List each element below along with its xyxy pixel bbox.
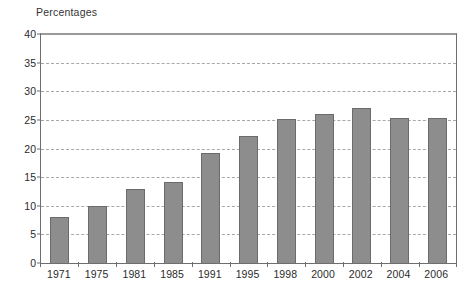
bar-slot-1981 — [116, 34, 154, 263]
x-axis-labels-group: 1971197519811985199119951998200020022004… — [40, 268, 455, 280]
bar-1991[interactable] — [201, 153, 220, 263]
bar-slot-1991 — [192, 34, 230, 263]
bar-slot-2006 — [418, 34, 456, 263]
x-axis-label-1981: 1981 — [115, 268, 153, 280]
bar-1998[interactable] — [277, 119, 296, 263]
bar-slot-1975 — [79, 34, 117, 263]
x-axis-label-1995: 1995 — [229, 268, 267, 280]
bar-slot-1995 — [230, 34, 268, 263]
bar-1971[interactable] — [50, 217, 69, 263]
x-tick-mark-1981 — [116, 262, 117, 267]
y-tick-label-5: 5 — [30, 228, 36, 240]
bar-slot-2004 — [381, 34, 419, 263]
y-tick-label-0: 0 — [30, 257, 36, 269]
x-tick-mark-1991 — [192, 262, 193, 267]
bar-slot-1998 — [267, 34, 305, 263]
bars-group — [41, 34, 456, 263]
x-tick-mark-1985 — [154, 262, 155, 267]
y-tick-label-20: 20 — [24, 143, 36, 155]
bar-1985[interactable] — [164, 182, 183, 263]
y-tick-label-10: 10 — [24, 200, 36, 212]
y-tick-label-15: 15 — [24, 171, 36, 183]
bar-slot-2000 — [305, 34, 343, 263]
bar-slot-2002 — [343, 34, 381, 263]
bar-1975[interactable] — [88, 206, 107, 263]
bar-2006[interactable] — [428, 118, 447, 263]
bar-2000[interactable] — [315, 114, 334, 263]
x-tick-mark-2006 — [419, 262, 420, 267]
x-axis-label-2000: 2000 — [304, 268, 342, 280]
y-tick-label-25: 25 — [24, 114, 36, 126]
x-axis-label-1975: 1975 — [78, 268, 116, 280]
bar-slot-1971 — [41, 34, 79, 263]
x-tick-mark-1971 — [40, 262, 41, 267]
x-axis-label-2006: 2006 — [417, 268, 455, 280]
bar-1995[interactable] — [239, 136, 258, 263]
x-tick-mark-1975 — [78, 262, 79, 267]
bar-slot-1985 — [154, 34, 192, 263]
x-axis-label-1991: 1991 — [191, 268, 229, 280]
x-tick-mark-2000 — [305, 262, 306, 267]
y-tick-label-40: 40 — [24, 28, 36, 40]
x-axis-label-1998: 1998 — [266, 268, 304, 280]
chart-axis-title: Percentages — [36, 6, 97, 18]
x-tick-mark-2004 — [381, 262, 382, 267]
x-tick-mark-1998 — [267, 262, 268, 267]
x-axis-label-1971: 1971 — [40, 268, 78, 280]
plot-area: 4035302520151050 — [40, 33, 457, 264]
bar-1981[interactable] — [126, 189, 145, 263]
bar-2004[interactable] — [390, 118, 409, 263]
bar-chart: Percentages 4035302520151050 19711975198… — [0, 0, 467, 289]
x-axis-label-2004: 2004 — [380, 268, 418, 280]
y-tick-label-30: 30 — [24, 85, 36, 97]
x-tick-mark-end — [456, 262, 457, 267]
y-tick-label-35: 35 — [24, 57, 36, 69]
x-axis-label-1985: 1985 — [153, 268, 191, 280]
x-tick-mark-1995 — [230, 262, 231, 267]
x-tick-mark-2002 — [343, 262, 344, 267]
bar-2002[interactable] — [352, 108, 371, 263]
x-axis-label-2002: 2002 — [342, 268, 380, 280]
